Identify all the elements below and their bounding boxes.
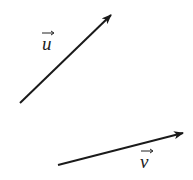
- vector-u-label: u: [42, 31, 54, 54]
- v-letter: v: [140, 151, 149, 172]
- vector-u-line: [20, 15, 111, 103]
- vector-v-line: [58, 133, 183, 165]
- vector-diagram: u v: [0, 0, 193, 180]
- vector-v-label: v: [140, 149, 153, 172]
- u-letter: u: [42, 33, 52, 54]
- vector-svg: u v: [0, 0, 193, 180]
